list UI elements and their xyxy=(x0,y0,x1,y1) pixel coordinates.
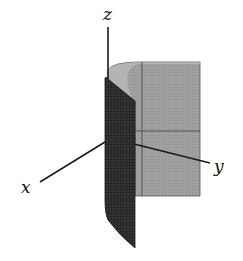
front-surface xyxy=(105,77,135,248)
parabolic-cylinder-diagram: z x y xyxy=(0,0,243,261)
y-axis-label: y xyxy=(213,156,224,176)
x-axis xyxy=(40,142,105,182)
z-axis-label: z xyxy=(102,4,113,24)
x-axis-label: x xyxy=(21,177,31,197)
